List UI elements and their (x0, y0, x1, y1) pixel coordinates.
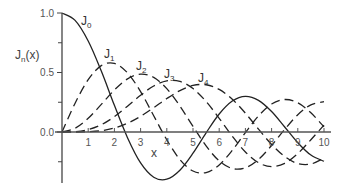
x-axis-title: x (151, 146, 157, 160)
curve-j0 (62, 13, 324, 180)
bessel-chart: 1.00.50.0 12345678910 Jn(x) x J0J1J2J3J4 (0, 0, 347, 190)
label-j2: J2 (136, 59, 147, 75)
curve-labels: J0J1J2J3J4 (81, 14, 209, 87)
label-j1: J1 (104, 47, 115, 63)
x-tick-label: 8 (269, 137, 275, 148)
x-tick-label: 9 (295, 137, 301, 148)
x-tick-label: 1 (85, 137, 91, 148)
y-axis-title: Jn(x) (15, 48, 39, 64)
y-axis-title-arg: (x) (25, 48, 39, 62)
label-j0: J0 (81, 14, 92, 30)
x-tick-label: 4 (164, 137, 170, 148)
x-tick-label: 5 (190, 137, 196, 148)
x-tick-label: 7 (243, 137, 249, 148)
y-tick-label: 0.0 (40, 127, 54, 138)
label-j3: J3 (164, 67, 175, 83)
label-j4: J4 (198, 71, 209, 87)
x-tick-label: 10 (318, 137, 330, 148)
x-tick-label: 6 (216, 137, 222, 148)
x-tick-label: 2 (112, 137, 118, 148)
curves-layer (62, 13, 324, 180)
x-tick-label: 3 (138, 137, 144, 148)
y-tick-label: 1.0 (40, 8, 54, 19)
y-ticks: 1.00.50.0 (40, 8, 62, 162)
curve-j1 (62, 63, 324, 173)
y-tick-label: 0.5 (40, 67, 54, 78)
